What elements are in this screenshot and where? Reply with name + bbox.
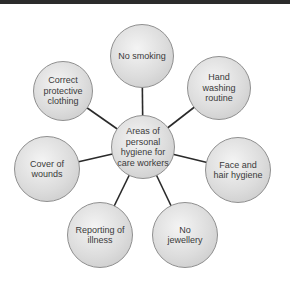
node-cover-wounds: Cover of wounds	[14, 136, 80, 202]
center-node: Areas of personal hygiene for care worke…	[111, 115, 175, 179]
node-hand-washing-routine: Hand washing routine	[187, 56, 251, 120]
node-correct-protective-clothing: Correct protective clothing	[33, 61, 93, 121]
center-label: Areas of personal hygiene for care worke…	[117, 126, 169, 168]
node-label: Reporting of illness	[75, 225, 124, 246]
node-label: No jewellery	[167, 225, 202, 246]
node-label: Correct protective clothing	[43, 75, 82, 107]
node-face-hair-hygiene: Face and hair hygiene	[205, 137, 271, 203]
node-label: Cover of wounds	[30, 159, 64, 180]
node-no-jewellery: No jewellery	[152, 202, 218, 268]
node-reporting-illness: Reporting of illness	[67, 202, 133, 268]
node-no-smoking: No smoking	[110, 24, 174, 88]
node-label: Face and hair hygiene	[213, 160, 262, 181]
node-label: Hand washing routine	[202, 72, 235, 104]
node-label: No smoking	[118, 51, 166, 62]
